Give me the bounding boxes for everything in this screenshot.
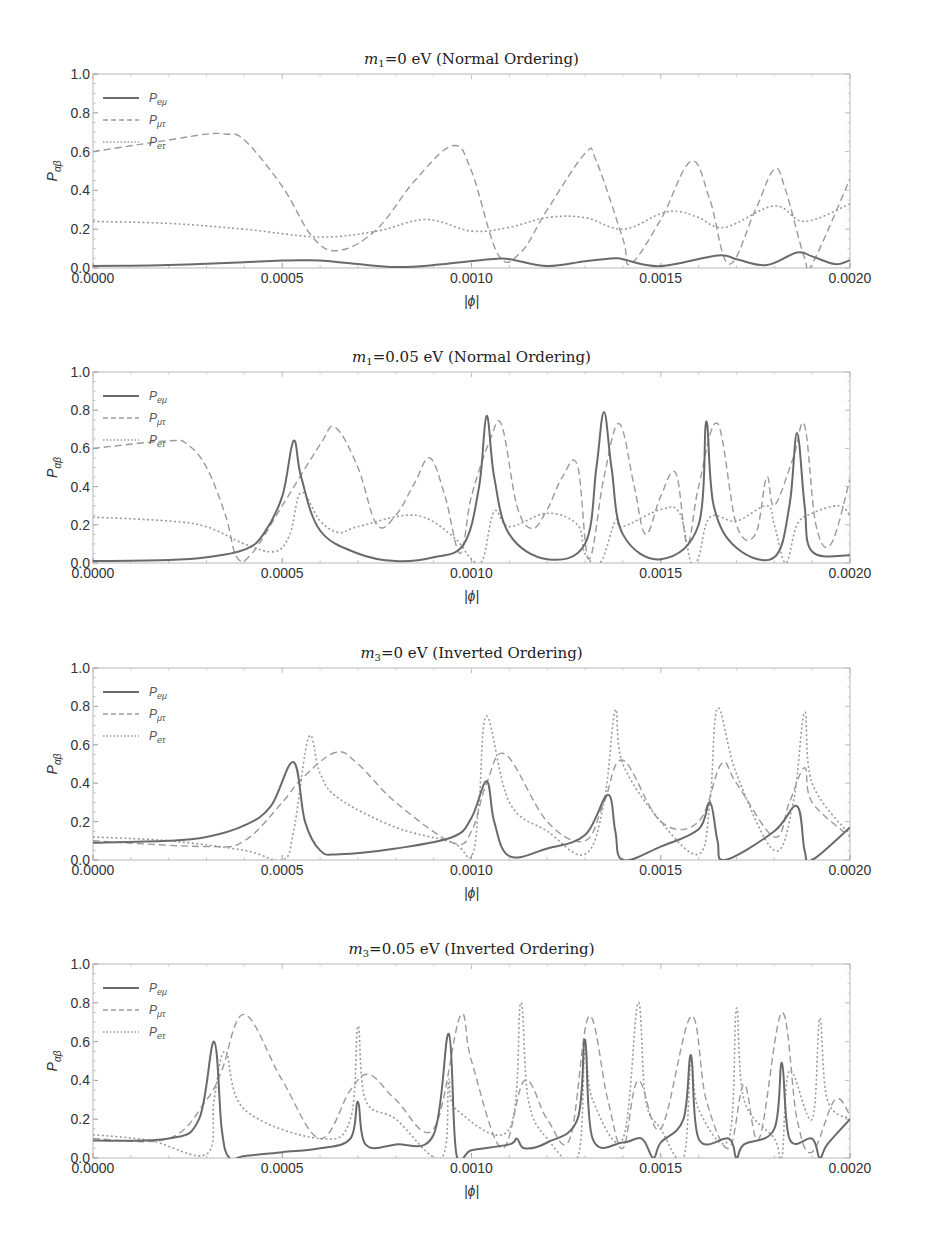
y-tick-label: 1.0	[71, 66, 91, 82]
legend-label-p-mutau: Pμτ	[149, 707, 166, 723]
legend-label-p-etau: Peτ	[149, 433, 166, 449]
x-tick-label: 0.0010	[450, 862, 493, 878]
legend-label-p-emu: Peμ	[149, 389, 167, 405]
y-tick-label: 0.8	[71, 105, 91, 121]
y-tick-label: 0.8	[71, 698, 91, 714]
title-mass-symbol: m	[364, 50, 378, 68]
y-axis-label-sub: αβ	[52, 753, 63, 765]
y-tick-label: 0.2	[71, 517, 91, 533]
y-axis-label: Pαβ	[44, 1050, 63, 1071]
series-line-p-emu	[93, 1034, 850, 1163]
chart-panel-4: m3=0.05 eV (Inverted Ordering)0.00000.00…	[44, 940, 872, 1199]
title-text: =0.05 eV (Normal Ordering)	[373, 348, 591, 366]
x-tick-label: 0.0020	[829, 270, 872, 286]
legend-label-p-mutau: Pμτ	[149, 113, 166, 129]
legend-label-p-emu: Peμ	[149, 981, 167, 997]
x-tick-label: 0.0020	[829, 862, 872, 878]
title-text: =0 eV (Normal Ordering)	[385, 50, 579, 68]
legend-label-p-emu: Peμ	[149, 685, 167, 701]
x-tick-label: 0.0010	[450, 565, 493, 581]
x-tick-label: 0.0020	[829, 565, 872, 581]
legend-label-p-emu: Peμ	[149, 91, 167, 107]
y-tick-label: 0.4	[71, 182, 91, 198]
figure: m1=0 eV (Normal Ordering)0.00000.00050.0…	[0, 0, 927, 1236]
y-tick-label: 0.2	[71, 221, 91, 237]
y-tick-label: 0.4	[71, 479, 91, 495]
x-tick-label: 0.0015	[639, 1160, 682, 1176]
title-mass-symbol: m	[360, 644, 374, 662]
chart-title: m3=0 eV (Inverted Ordering)	[360, 644, 582, 663]
legend-label-p-mutau: Pμτ	[149, 411, 166, 427]
chart-title: m1=0.05 eV (Normal Ordering)	[352, 348, 591, 367]
x-axis-label: |ϕ|	[464, 885, 479, 901]
x-tick-label: 0.0015	[639, 270, 682, 286]
chart-panel-2: m1=0.05 eV (Normal Ordering)0.00000.0005…	[44, 348, 872, 604]
x-axis-label: |ϕ|	[464, 293, 479, 309]
x-tick-label: 0.0020	[829, 1160, 872, 1176]
chart-legend: PeμPμτPeτ	[103, 685, 167, 745]
x-tick-label: 0.0005	[261, 1160, 304, 1176]
y-tick-label: 0.0	[71, 555, 91, 571]
y-tick-label: 1.0	[71, 956, 91, 972]
y-tick-label: 0.6	[71, 737, 91, 753]
series-line-p-emu	[93, 412, 850, 561]
y-tick-label: 1.0	[71, 364, 91, 380]
y-tick-label: 0.2	[71, 814, 91, 830]
title-text: =0.05 eV (Inverted Ordering)	[369, 940, 594, 958]
x-tick-label: 0.0010	[450, 270, 493, 286]
x-tick-label: 0.0015	[639, 862, 682, 878]
x-axis-label: |ϕ|	[464, 1183, 479, 1199]
legend-label-p-mutau: Pμτ	[149, 1003, 166, 1019]
y-tick-label: 0.6	[71, 440, 91, 456]
y-tick-label: 0.0	[71, 852, 91, 868]
title-text: =0 eV (Inverted Ordering)	[381, 644, 583, 662]
x-tick-label: 0.0010	[450, 1160, 493, 1176]
x-axis-label: |ϕ|	[464, 588, 479, 604]
y-tick-label: 0.0	[71, 1150, 91, 1166]
y-tick-label: 1.0	[71, 660, 91, 676]
x-tick-label: 0.0005	[261, 862, 304, 878]
y-tick-label: 0.2	[71, 1111, 91, 1127]
series-line-p-mutau	[93, 421, 850, 562]
y-axis-label-sub: αβ	[52, 1050, 63, 1062]
y-tick-label: 0.4	[71, 775, 91, 791]
chart-legend: PeμPμτPeτ	[103, 389, 167, 449]
title-mass-symbol: m	[352, 348, 366, 366]
legend-label-p-etau: Peτ	[149, 729, 166, 745]
series-line-p-etau	[93, 492, 850, 567]
chart-panel-1: m1=0 eV (Normal Ordering)0.00000.00050.0…	[44, 50, 872, 309]
y-tick-label: 0.6	[71, 144, 91, 160]
y-axis-label-sub: αβ	[52, 160, 63, 172]
chart-title: m3=0.05 eV (Inverted Ordering)	[348, 940, 594, 959]
x-tick-label: 0.0015	[639, 565, 682, 581]
title-mass-symbol: m	[348, 940, 362, 958]
chart-legend: PeμPμτPeτ	[103, 981, 167, 1041]
y-axis-label: Pαβ	[44, 753, 63, 774]
legend-label-p-etau: Peτ	[149, 1025, 166, 1041]
series-line-p-mutau	[93, 752, 850, 847]
y-axis-label: Pαβ	[44, 457, 63, 478]
y-axis-label: Pαβ	[44, 160, 63, 181]
y-tick-label: 0.4	[71, 1072, 91, 1088]
y-tick-label: 0.6	[71, 1034, 91, 1050]
chart-panel-3: m3=0 eV (Inverted Ordering)0.00000.00050…	[44, 644, 872, 901]
y-tick-label: 0.0	[71, 260, 91, 276]
chart-title: m1=0 eV (Normal Ordering)	[364, 50, 579, 69]
x-tick-label: 0.0005	[261, 565, 304, 581]
y-axis-label-sub: αβ	[52, 457, 63, 469]
y-tick-label: 0.8	[71, 402, 91, 418]
chart-legend: PeμPμτPeτ	[103, 91, 167, 151]
y-tick-label: 0.8	[71, 995, 91, 1011]
series-line-p-mutau	[93, 133, 850, 272]
legend-label-p-etau: Peτ	[149, 135, 166, 151]
series-line-p-etau	[93, 204, 850, 237]
x-tick-label: 0.0005	[261, 270, 304, 286]
